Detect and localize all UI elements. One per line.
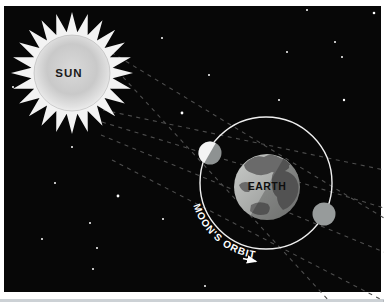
eclipse-diagram: MOON'S ORBIT EARTH SUN [0, 0, 384, 302]
star [208, 74, 210, 76]
sun: SUN [11, 12, 133, 134]
moon-in-earth-shadow [313, 203, 336, 226]
star [334, 41, 336, 43]
star [92, 268, 94, 270]
star [341, 56, 343, 58]
star [161, 37, 163, 39]
star [96, 247, 98, 249]
star [278, 99, 280, 101]
moon-near-sun [199, 142, 222, 165]
diagram-frame: MOON'S ORBIT EARTH SUN [0, 0, 384, 302]
star [54, 182, 56, 184]
sun-label: SUN [55, 67, 82, 79]
star [204, 285, 206, 287]
star [343, 99, 345, 101]
star [89, 222, 91, 224]
star [181, 112, 184, 115]
star [162, 218, 164, 220]
earth: EARTH [234, 154, 300, 220]
star [41, 238, 43, 240]
star [306, 9, 308, 11]
star [12, 86, 14, 88]
star [117, 195, 120, 198]
earth-label: EARTH [248, 180, 287, 192]
star [286, 51, 288, 53]
star [71, 146, 73, 148]
star [373, 12, 376, 15]
